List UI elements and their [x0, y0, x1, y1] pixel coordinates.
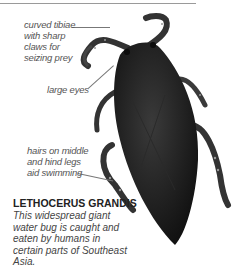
- annotation-eyes-line-1: large eyes: [47, 84, 89, 95]
- annotation-tibiae-line-4: seizing prey: [24, 52, 75, 63]
- leader-line-tibiae: [72, 27, 110, 28]
- annotation-hairs-line-1: hairs on middle: [27, 145, 88, 156]
- annotation-tibiae-line-2: with sharp: [24, 30, 75, 41]
- annotation-hairs-line-3: aid swimming: [27, 167, 88, 178]
- annotation-tibiae-line-3: claws for: [24, 41, 75, 52]
- annotation-tibiae-line-1: curved tibiae: [24, 19, 75, 30]
- annotation-eyes: large eyes: [47, 84, 89, 95]
- annotation-hairs: hairs on middle and hind legs aid swimmi…: [27, 145, 88, 178]
- annotation-tibiae: curved tibiae with sharp claws for seizi…: [24, 19, 75, 63]
- species-name: LETHOCERUS GRANDIS: [13, 197, 137, 209]
- annotation-hairs-line-2: and hind legs: [27, 156, 88, 167]
- species-description: This widespread giant water bug is caugh…: [13, 210, 133, 268]
